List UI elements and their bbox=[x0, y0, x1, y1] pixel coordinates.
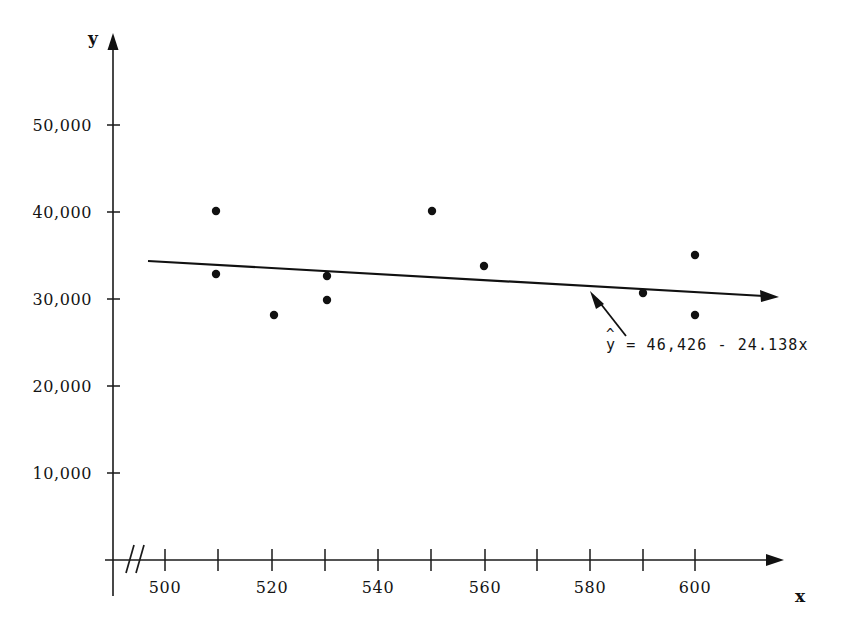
x-tick-label-600: 600 bbox=[660, 578, 730, 597]
x-tick-label-580: 580 bbox=[555, 578, 625, 597]
y-axis-group bbox=[107, 33, 120, 596]
x-tick-label-500: 500 bbox=[130, 578, 200, 597]
data-point bbox=[270, 311, 278, 319]
y-tick-label-10000: 10,000 bbox=[0, 464, 92, 483]
x-axis-group bbox=[105, 545, 784, 573]
x-axis-label: x bbox=[795, 586, 805, 606]
regression-equation-text: = 46,426 - 24.138x bbox=[616, 336, 808, 354]
data-point bbox=[691, 311, 699, 319]
data-point bbox=[212, 207, 220, 215]
regression-equation-annotation: y = 46,426 - 24.138x bbox=[606, 336, 809, 354]
y-axis-label: y bbox=[88, 28, 98, 48]
y-hat-symbol: y bbox=[606, 336, 616, 354]
y-axis-arrowhead bbox=[108, 33, 119, 50]
regression-line-arrowhead bbox=[760, 290, 779, 302]
data-point bbox=[480, 262, 488, 270]
x-tick-label-520: 520 bbox=[237, 578, 307, 597]
data-points-group bbox=[212, 207, 699, 319]
x-axis-arrowhead bbox=[766, 554, 784, 566]
data-point bbox=[323, 296, 331, 304]
data-point bbox=[639, 289, 647, 297]
x-tick-label-560: 560 bbox=[450, 578, 520, 597]
data-point bbox=[428, 207, 436, 215]
x-axis-break-icon bbox=[126, 545, 144, 573]
data-point bbox=[323, 272, 331, 280]
plot-canvas bbox=[0, 0, 864, 624]
data-point bbox=[212, 270, 220, 278]
regression-line bbox=[148, 261, 764, 296]
regression-line-group bbox=[148, 261, 779, 302]
data-point bbox=[691, 251, 699, 259]
scatter-plot-figure: y x 50,000 40,000 30,000 20,000 10,000 5… bbox=[0, 0, 864, 624]
y-tick-label-20000: 20,000 bbox=[0, 377, 92, 396]
y-tick-label-50000: 50,000 bbox=[0, 116, 92, 135]
x-tick-label-540: 540 bbox=[343, 578, 413, 597]
y-tick-label-30000: 30,000 bbox=[0, 290, 92, 309]
y-tick-label-40000: 40,000 bbox=[0, 203, 92, 222]
